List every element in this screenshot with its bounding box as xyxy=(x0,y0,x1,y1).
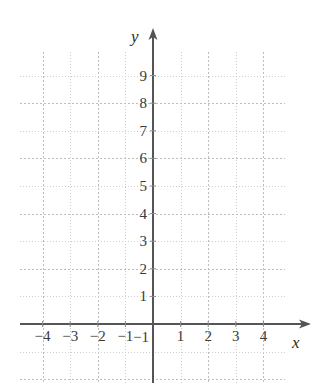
y-tick-label: 8 xyxy=(140,96,148,111)
y-tick-label: 9 xyxy=(140,68,148,83)
x-tick-label: 4 xyxy=(260,329,268,344)
y-tick-label: 7 xyxy=(140,123,148,138)
x-tick-label: −1 xyxy=(117,329,133,344)
y-axis-label: y xyxy=(131,28,139,45)
x-tick-label: −4 xyxy=(35,329,51,344)
y-tick-label: 6 xyxy=(140,151,148,166)
x-axis-label: x xyxy=(292,334,300,351)
coordinate-plane: 123456789−4−3−2−11234−1 y x xyxy=(0,0,336,390)
x-tick-label: 2 xyxy=(204,329,212,344)
x-tick-label: 1 xyxy=(177,329,185,344)
x-tick-label: −2 xyxy=(90,329,106,344)
y-tick-label: 3 xyxy=(140,234,148,249)
x-tick-label: −3 xyxy=(62,329,78,344)
y-tick-label: 2 xyxy=(140,261,148,276)
y-tick-label: 5 xyxy=(140,179,148,194)
x-tick-label: 3 xyxy=(232,329,240,344)
y-tick-label: 4 xyxy=(140,206,148,221)
y-tick-label-negative-one: −1 xyxy=(133,330,149,345)
y-tick-label: 1 xyxy=(140,289,148,304)
